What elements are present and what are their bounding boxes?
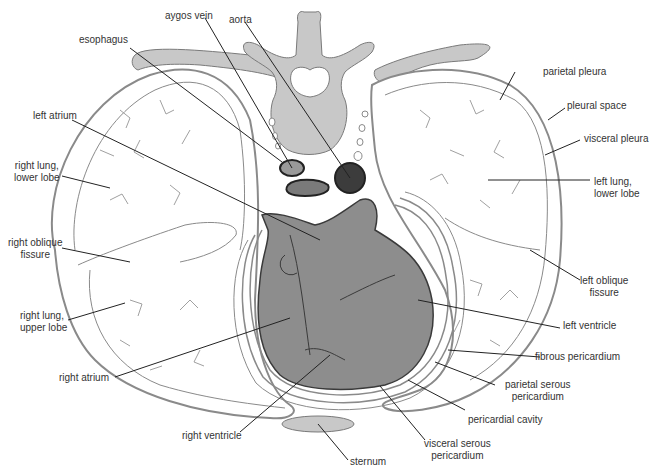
label-pleural-space: pleural space	[567, 100, 626, 112]
vertebra	[243, 11, 374, 154]
label-esophagus: esophagus	[79, 34, 128, 46]
label-sternum: sternum	[350, 456, 386, 468]
label-visceral-serous-pericardium: visceral serous pericardium	[424, 438, 491, 462]
label-parietal-pleura: parietal pleura	[543, 66, 606, 78]
label-visceral-pleura: visceral pleura	[584, 133, 648, 145]
label-right-lung-lower-lobe: right lung, lower lobe	[14, 160, 60, 184]
mediastinal-vessels	[280, 160, 365, 196]
label-left-atrium: left atrium	[33, 110, 77, 122]
label-left-oblique-fissure: left oblique fissure	[580, 275, 628, 299]
label-right-lung-upper-lobe: right lung, upper lobe	[20, 310, 67, 334]
label-aorta: aorta	[229, 14, 252, 26]
esophagus	[286, 180, 328, 196]
label-left-ventricle: left ventricle	[563, 320, 616, 332]
label-left-lung-lower-lobe: left lung, lower lobe	[594, 176, 640, 200]
label-right-atrium: right atrium	[59, 372, 109, 384]
label-pericardial-cavity: pericardial cavity	[468, 414, 542, 426]
label-parietal-serous-pericardium: parietal serous pericardium	[505, 379, 571, 403]
label-aygos-vein: aygos vein	[165, 10, 213, 22]
label-fibrous-pericardium: fibrous pericardium	[535, 351, 620, 363]
label-right-ventricle: right ventricle	[182, 430, 241, 442]
label-right-oblique-fissure: right oblique fissure	[8, 237, 62, 261]
